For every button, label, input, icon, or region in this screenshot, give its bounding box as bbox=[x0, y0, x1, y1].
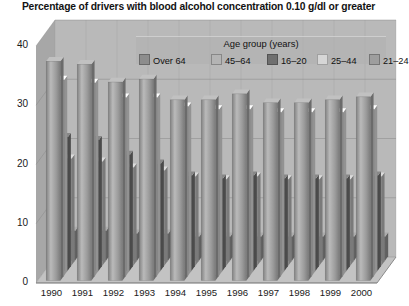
legend-label: Over 64 bbox=[153, 56, 186, 66]
legend-item-21-24[interactable]: 21–24 bbox=[369, 50, 409, 62]
x-axis-tick: 1991 bbox=[66, 287, 100, 298]
legend-item-over-64[interactable]: Over 64 bbox=[139, 50, 186, 62]
y-axis-tick: 20 bbox=[2, 158, 28, 169]
legend: Age group (years) Over 6445–6416–2025–44… bbox=[136, 36, 386, 64]
legend-item-25-44[interactable]: 25–44 bbox=[317, 50, 357, 62]
legend-label: 25–44 bbox=[331, 56, 357, 66]
x-axis-tick: 1990 bbox=[35, 287, 69, 298]
y-axis-tick: 30 bbox=[2, 98, 28, 109]
y-axis-tick: 0 bbox=[2, 276, 28, 287]
x-axis-tick: 1998 bbox=[283, 287, 317, 298]
x-axis-tick: 1992 bbox=[97, 287, 131, 298]
x-axis-tick: 2000 bbox=[345, 287, 379, 298]
legend-items: Over 6445–6416–2025–4421–24 bbox=[139, 50, 385, 63]
legend-label: 16–20 bbox=[281, 56, 307, 66]
legend-label: 21–24 bbox=[383, 56, 409, 66]
y-axis-tick: 40 bbox=[2, 39, 28, 50]
x-axis-tick: 1996 bbox=[221, 287, 255, 298]
x-axis-tick: 1993 bbox=[128, 287, 162, 298]
legend-swatch-icon bbox=[267, 54, 278, 65]
x-axis-tick: 1994 bbox=[159, 287, 193, 298]
legend-title: Age group (years) bbox=[136, 38, 386, 49]
legend-swatch-icon bbox=[317, 54, 328, 65]
legend-item-45-64[interactable]: 45–64 bbox=[211, 50, 251, 62]
y-axis-tick: 10 bbox=[2, 217, 28, 228]
legend-swatch-icon bbox=[369, 54, 380, 65]
legend-swatch-icon bbox=[211, 54, 222, 65]
legend-label: 45–64 bbox=[225, 56, 251, 66]
x-axis-tick: 1995 bbox=[190, 287, 224, 298]
legend-swatch-icon bbox=[139, 54, 150, 65]
x-axis-tick: 1999 bbox=[314, 287, 348, 298]
legend-item-16-20[interactable]: 16–20 bbox=[267, 50, 307, 62]
x-axis-tick: 1997 bbox=[252, 287, 286, 298]
chart-title: Percentage of drivers with blood alcohol… bbox=[0, 1, 397, 12]
